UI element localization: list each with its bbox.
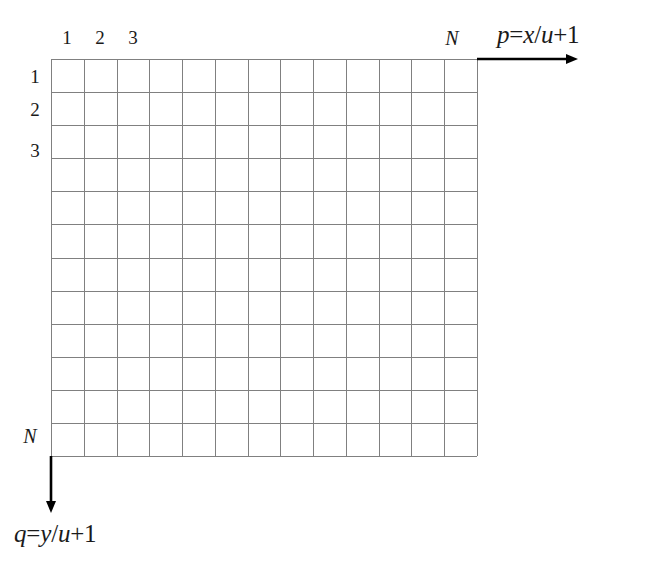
vaxis-slash: / <box>51 520 58 547</box>
column-label-1: 1 <box>57 28 77 47</box>
vaxis-denominator: u <box>58 520 70 547</box>
vaxis-numerator: y <box>40 520 51 547</box>
column-label-2: 2 <box>90 28 110 47</box>
axis-arrows <box>0 0 648 571</box>
haxis-numerator: x <box>523 21 534 48</box>
horizontal-axis-label: p=x/u+1 <box>497 22 579 47</box>
haxis-plus-one: +1 <box>553 21 579 48</box>
figure-canvas: 1 2 3 N 1 2 3 N p=x/u+1 q=y/u+1 <box>0 0 648 571</box>
column-label-3: 3 <box>123 28 143 47</box>
row-label-3: 3 <box>25 141 45 160</box>
haxis-var: p <box>497 21 509 48</box>
vaxis-equals: = <box>26 520 40 547</box>
vaxis-plus-one: +1 <box>70 520 96 547</box>
haxis-equals: = <box>509 21 523 48</box>
vertical-axis-label: q=y/u+1 <box>14 521 96 546</box>
column-label-n: N <box>440 28 464 48</box>
haxis-slash: / <box>534 21 541 48</box>
row-label-2: 2 <box>25 100 45 119</box>
row-label-1: 1 <box>25 67 45 86</box>
row-label-n: N <box>18 426 42 446</box>
haxis-denominator: u <box>541 21 553 48</box>
vaxis-var: q <box>14 520 26 547</box>
